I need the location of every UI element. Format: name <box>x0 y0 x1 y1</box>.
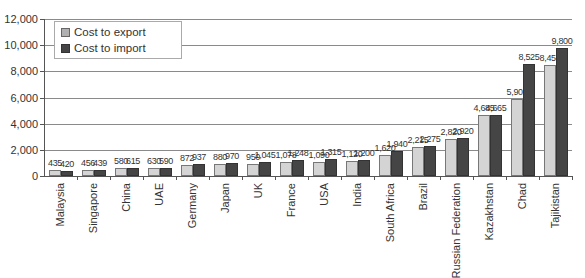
value-label: 4,665 <box>485 103 506 113</box>
x-tick-label: France <box>285 183 297 217</box>
import-bar <box>457 138 469 176</box>
legend: Cost to export Cost to import <box>54 21 182 59</box>
x-tick-label: Russian Federation <box>450 183 462 278</box>
export-bar <box>181 165 193 176</box>
y-tick-label: 12,000 <box>4 13 38 25</box>
y-tick-label: 6,000 <box>10 92 38 104</box>
x-tick-label: Singapore <box>87 183 99 233</box>
x-tick <box>539 176 540 180</box>
gridline <box>44 98 572 99</box>
x-tick-label: Tajikistan <box>549 183 561 228</box>
x-tick-label: China <box>120 183 132 212</box>
x-tick <box>242 176 243 180</box>
x-tick <box>407 176 408 180</box>
value-label: 1,045 <box>254 150 275 160</box>
y-tick-label: 4,000 <box>10 118 38 130</box>
x-tick-label: UK <box>252 183 264 198</box>
import-bar <box>61 171 73 176</box>
value-label: 9,800 <box>551 36 572 46</box>
x-tick-label: Kazakhstan <box>483 183 495 240</box>
legend-swatch-import <box>61 44 70 53</box>
export-bar <box>214 164 226 176</box>
legend-swatch-export <box>61 28 70 37</box>
x-tick <box>143 176 144 180</box>
legend-label-export: Cost to export <box>74 26 146 38</box>
import-bar <box>424 146 436 176</box>
y-tick-label: 10,000 <box>4 39 38 51</box>
export-bar <box>478 115 490 176</box>
import-bar <box>160 168 172 176</box>
export-bar <box>379 155 391 176</box>
value-label: 8,525 <box>518 52 539 62</box>
x-tick <box>110 176 111 180</box>
value-label: 2,275 <box>419 134 440 144</box>
export-bar <box>511 99 523 176</box>
x-tick-label: Chad <box>516 183 528 209</box>
value-label: 590 <box>159 156 173 166</box>
import-bar <box>292 160 304 176</box>
gridline <box>44 19 572 20</box>
import-bar <box>490 115 502 176</box>
y-tick-label: 8,000 <box>10 65 38 77</box>
import-bar <box>358 160 370 176</box>
export-bar <box>346 161 358 176</box>
x-tick <box>176 176 177 180</box>
export-bar <box>412 147 424 176</box>
x-tick <box>275 176 276 180</box>
value-label: 439 <box>93 158 107 168</box>
x-tick <box>341 176 342 180</box>
x-tick <box>209 176 210 180</box>
export-bar <box>445 139 457 176</box>
export-bar <box>49 170 61 176</box>
x-tick <box>506 176 507 180</box>
export-bar <box>280 162 292 176</box>
export-bar <box>544 65 556 176</box>
value-label: 615 <box>126 156 140 166</box>
export-bar <box>247 164 259 176</box>
import-bar <box>325 159 337 176</box>
export-bar <box>313 162 325 176</box>
x-tick <box>473 176 474 180</box>
value-label: 1,315 <box>320 147 341 157</box>
import-bar <box>94 170 106 176</box>
x-tick-label: South Africa <box>384 183 396 242</box>
value-label: 420 <box>60 159 74 169</box>
export-bar <box>115 168 127 176</box>
legend-label-import: Cost to import <box>74 42 146 54</box>
import-bar <box>259 162 271 176</box>
gridline <box>44 71 572 72</box>
import-bar <box>523 64 535 176</box>
x-tick <box>374 176 375 180</box>
x-tick-label: Malaysia <box>54 183 66 226</box>
import-bar <box>226 163 238 176</box>
import-bar <box>556 48 568 176</box>
value-label: 1,248 <box>287 148 308 158</box>
x-tick-label: India <box>351 183 363 207</box>
x-tick-label: Germany <box>186 183 198 228</box>
x-tick <box>308 176 309 180</box>
x-tick <box>440 176 441 180</box>
export-bar <box>148 168 160 176</box>
value-label: 1,940 <box>386 139 407 149</box>
x-tick-label: Brazil <box>417 183 429 211</box>
x-tick <box>77 176 78 180</box>
value-label: 1,200 <box>353 148 374 158</box>
x-tick-label: UAE <box>153 183 165 206</box>
legend-item-import: Cost to import <box>61 42 146 54</box>
value-label: 937 <box>192 152 206 162</box>
value-label: 970 <box>225 151 239 161</box>
x-tick <box>572 176 573 180</box>
value-label: 2,920 <box>452 126 473 136</box>
x-tick-label: Japan <box>219 183 231 213</box>
import-bar <box>193 164 205 176</box>
y-tick-label: 0 <box>32 170 38 182</box>
x-tick-label: USA <box>318 183 330 206</box>
legend-item-export: Cost to export <box>61 26 146 38</box>
y-axis <box>44 19 45 177</box>
import-bar <box>127 168 139 176</box>
export-bar <box>82 170 94 176</box>
import-bar <box>391 151 403 176</box>
y-tick-label: 2,000 <box>10 144 38 156</box>
